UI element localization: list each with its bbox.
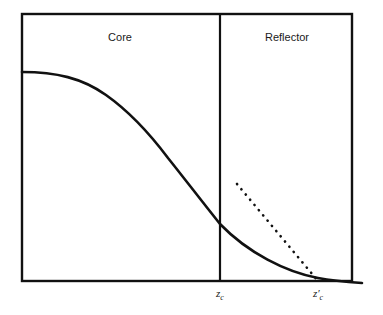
extrapolated-boundary-tick-label: z′c <box>298 287 338 302</box>
zc-subscript: c <box>220 293 224 302</box>
zcprime-subscript: c <box>320 293 324 302</box>
core-boundary-tick-label: zc <box>200 287 240 302</box>
flux-distribution-diagram <box>0 0 383 315</box>
core-region-label: Core <box>70 31 170 43</box>
reflector-region-label: Reflector <box>237 31 337 43</box>
plot-frame <box>22 14 352 281</box>
figure-container: Core Reflector zc z′c <box>0 0 383 315</box>
